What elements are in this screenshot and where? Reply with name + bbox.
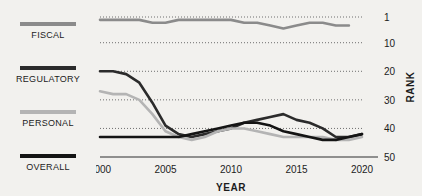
chart-x-axis-title: YEAR — [216, 182, 246, 193]
chart-gridlines — [100, 17, 362, 128]
series-line-fiscal — [100, 20, 349, 29]
legend-item-regulatory: REGULATORY — [0, 66, 96, 85]
chart-series-layer — [100, 20, 362, 140]
legend-label-overall: OVERALL — [0, 162, 96, 173]
legend-swatch-personal — [20, 110, 76, 114]
legend-label-regulatory: REGULATORY — [0, 74, 96, 85]
chart-figure: FISCAL REGULATORY PERSONAL OVERALL 11020… — [0, 0, 422, 196]
x-tick-label: 2000 — [96, 164, 112, 175]
legend-item-overall: OVERALL — [0, 154, 96, 173]
chart-y-tick-labels: 11020304050 — [384, 12, 396, 163]
y-tick-label: 10 — [384, 38, 396, 49]
series-line-personal — [100, 91, 362, 140]
legend-swatch-fiscal — [20, 22, 76, 26]
y-tick-label: 50 — [384, 152, 396, 163]
chart-legend: FISCAL REGULATORY PERSONAL OVERALL — [0, 0, 96, 196]
x-tick-label: 2015 — [285, 164, 308, 175]
chart-plot-area: 11020304050 20002005201020152020 RANK YE… — [96, 0, 422, 196]
legend-label-personal: PERSONAL — [0, 118, 96, 129]
legend-swatch-regulatory — [20, 66, 76, 70]
y-tick-label: 1 — [384, 12, 390, 23]
y-tick-label: 40 — [384, 123, 396, 134]
y-tick-label: 30 — [384, 95, 396, 106]
legend-item-fiscal: FISCAL — [0, 22, 96, 41]
legend-swatch-overall — [20, 154, 76, 158]
legend-label-fiscal: FISCAL — [0, 30, 96, 41]
legend-item-personal: PERSONAL — [0, 110, 96, 129]
chart-y-axis-title: RANK — [405, 71, 416, 102]
x-tick-label: 2020 — [351, 164, 374, 175]
x-tick-label: 2005 — [154, 164, 177, 175]
y-tick-label: 20 — [384, 66, 396, 77]
x-tick-label: 2010 — [220, 164, 243, 175]
chart-x-tick-labels: 20002005201020152020 — [96, 164, 374, 175]
